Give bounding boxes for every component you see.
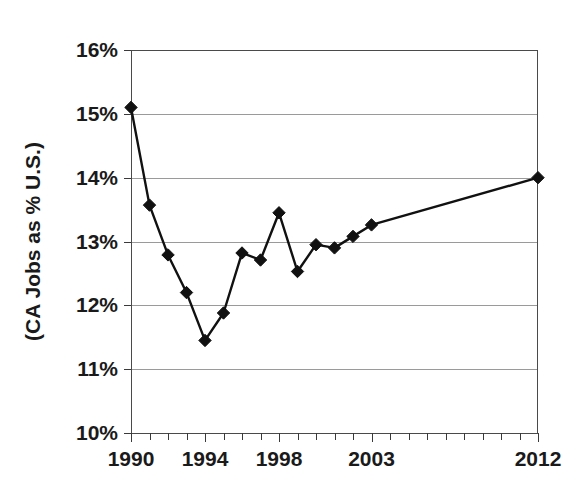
x-axis-tick-label: 1998 (256, 447, 303, 470)
x-axis-tick-label: 2003 (348, 447, 395, 470)
y-axis-tick-label: 16% (76, 38, 118, 61)
x-axis-tick-label: 1994 (182, 447, 229, 470)
y-axis-title-label: (CA Jobs as % U.S.) (21, 142, 44, 341)
y-axis-tick-label: 13% (76, 230, 118, 253)
x-axis-tick-label: 2012 (515, 447, 562, 470)
x-axis-tick-label: 1990 (108, 447, 155, 470)
chart-container: 16%15%14%13%12%11%10% 199019941998200320… (0, 0, 576, 494)
y-axis-tick-label: 12% (76, 293, 118, 316)
y-axis-tick-label: 10% (76, 421, 118, 444)
y-axis-title: (CA Jobs as % U.S.) (21, 142, 44, 341)
y-axis-tick-label: 14% (76, 166, 118, 189)
y-axis-tick-label: 11% (77, 357, 118, 380)
y-axis-tick-label: 15% (76, 102, 118, 125)
line-chart: 16%15%14%13%12%11%10% 199019941998200320… (0, 0, 576, 494)
